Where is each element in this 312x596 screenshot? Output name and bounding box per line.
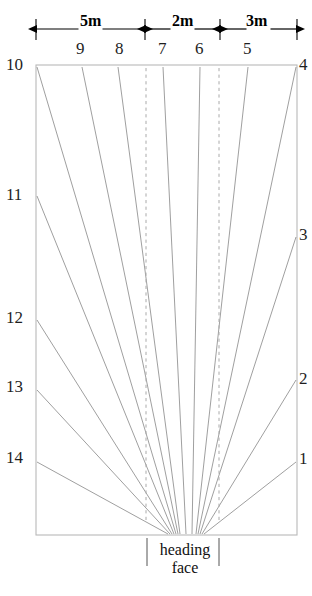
borehole-ray-6	[192, 67, 200, 534]
right-borehole-label-4: 4	[299, 56, 308, 73]
borehole-ray-12	[37, 320, 172, 534]
right-borehole-label-3: 3	[299, 226, 308, 243]
dashed-reference-lines	[146, 68, 219, 520]
borehole-ray-9	[82, 67, 178, 534]
heading-face-label: heading face	[125, 541, 245, 577]
borehole-ray-14	[37, 462, 168, 534]
top-borehole-label-7: 7	[158, 40, 167, 57]
borehole-ray-5	[196, 67, 248, 534]
borehole-ray-2	[202, 380, 296, 534]
top-borehole-label-8: 8	[115, 40, 124, 57]
top-borehole-label-5: 5	[243, 40, 252, 57]
diagram-canvas	[0, 0, 312, 596]
borehole-ray-4	[198, 67, 296, 534]
borehole-ray-11	[37, 196, 174, 534]
left-borehole-label-13: 13	[6, 378, 23, 395]
borehole-ray-13	[37, 390, 170, 534]
heading-face-line-2: face	[125, 559, 245, 577]
dimension-label-3m: 3m	[246, 12, 267, 30]
heading-face-line-1: heading	[125, 541, 245, 559]
left-borehole-label-14: 14	[6, 449, 23, 466]
top-borehole-label-6: 6	[195, 40, 204, 57]
borehole-ray-10	[37, 67, 176, 534]
borehole-ray-1	[204, 462, 296, 534]
right-borehole-label-1: 1	[299, 450, 308, 467]
left-borehole-label-11: 11	[6, 186, 22, 203]
borehole-ray-8	[118, 67, 180, 534]
top-borehole-label-9: 9	[76, 40, 85, 57]
borehole-fan-diagram: 98765101112131443215m2m3m heading face	[0, 0, 312, 596]
borehole-ray-3	[200, 237, 296, 534]
right-borehole-label-2: 2	[299, 370, 308, 387]
dimension-label-2m: 2m	[172, 12, 193, 30]
dimension-label-5m: 5m	[80, 12, 101, 30]
borehole-ray-group	[37, 67, 296, 534]
left-borehole-label-12: 12	[6, 309, 23, 326]
left-borehole-label-10: 10	[6, 56, 23, 73]
borehole-ray-7	[163, 67, 186, 534]
